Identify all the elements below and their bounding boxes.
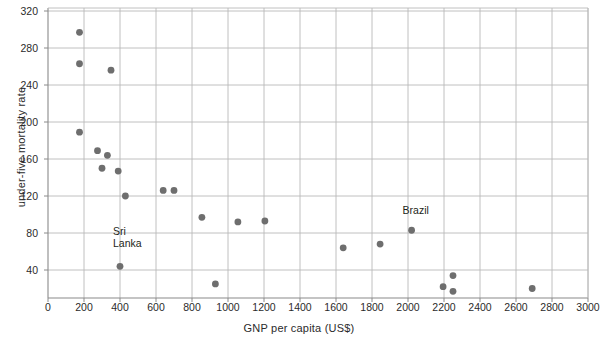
data-point	[117, 263, 124, 270]
x-tick-label: 1000	[208, 301, 248, 313]
data-point	[104, 152, 111, 159]
x-tick-label: 2800	[532, 301, 572, 313]
x-tick-label: 200	[64, 301, 104, 313]
x-tick-label: 800	[172, 301, 212, 313]
x-tick-label: 2000	[388, 301, 428, 313]
x-tick-label: 2200	[424, 301, 464, 313]
y-tick-label: 80	[8, 227, 38, 239]
x-tick-label: 1200	[244, 301, 284, 313]
data-point	[529, 285, 536, 292]
x-tick-label: 1400	[280, 301, 320, 313]
x-tick-label: 400	[100, 301, 140, 313]
x-tick-label: 2400	[460, 301, 500, 313]
x-tick-label: 600	[136, 301, 176, 313]
x-tick-label: 0	[28, 301, 68, 313]
data-point	[160, 187, 167, 194]
x-tick-label: 3000	[568, 301, 604, 313]
y-tick-label: 200	[8, 116, 38, 128]
y-tick-label: 40	[8, 264, 38, 276]
x-tick-label: 1600	[316, 301, 356, 313]
data-points	[76, 29, 535, 295]
axis-frame	[48, 8, 588, 298]
x-tick-label: 1800	[352, 301, 392, 313]
data-point	[199, 214, 206, 221]
data-point	[450, 288, 457, 295]
tick-marks	[44, 11, 588, 302]
data-point	[76, 129, 83, 136]
data-point	[76, 60, 83, 67]
data-point	[115, 168, 122, 175]
data-point	[408, 227, 415, 234]
y-tick-label: 160	[8, 153, 38, 165]
data-point	[108, 67, 115, 74]
data-point	[262, 218, 269, 225]
data-point	[340, 244, 347, 251]
data-point	[122, 193, 129, 200]
data-point	[450, 272, 457, 279]
y-tick-label: 240	[8, 79, 38, 91]
data-point	[212, 280, 219, 287]
gridlines	[48, 8, 588, 298]
data-point	[235, 219, 242, 226]
data-point	[440, 283, 447, 290]
y-tick-label: 320	[8, 5, 38, 17]
y-tick-label: 120	[8, 190, 38, 202]
point-annotation: Brazil	[403, 205, 429, 217]
data-point	[76, 29, 83, 36]
point-annotation: Sri Lanka	[113, 226, 142, 249]
data-point	[171, 187, 178, 194]
data-point	[377, 241, 384, 248]
data-point	[94, 147, 101, 154]
data-point	[99, 165, 106, 172]
x-tick-label: 2600	[496, 301, 536, 313]
y-tick-label: 280	[8, 42, 38, 54]
